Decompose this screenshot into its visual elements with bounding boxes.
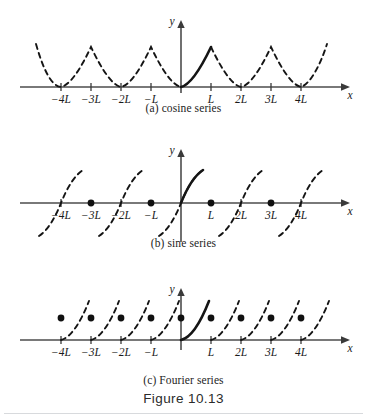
svg-text:3L: 3L xyxy=(264,209,277,221)
y-axis-label: y xyxy=(168,283,175,296)
figure-number-label: Figure 10.13 xyxy=(0,391,367,406)
svg-text:2L: 2L xyxy=(235,209,247,221)
figure-container: −4L −3L −2L −L L 2L 3L 4L x y (a) cosine… xyxy=(0,0,367,420)
curves-dashed xyxy=(61,301,329,340)
svg-text:L: L xyxy=(207,346,214,358)
svg-text:−4L: −4L xyxy=(51,346,71,358)
curve-solid-base-segment xyxy=(181,47,211,87)
x-axis-label: x xyxy=(346,89,353,101)
svg-text:−4L: −4L xyxy=(51,209,71,221)
svg-text:−2L: −2L xyxy=(111,209,131,221)
svg-text:L: L xyxy=(207,209,214,221)
svg-text:2L: 2L xyxy=(235,346,247,358)
panel-sine-series: −4L −3L −2L −L L 2L 3L 4L x y xyxy=(0,130,367,280)
curve-solid-base-segment xyxy=(181,170,203,203)
x-axis-label: x xyxy=(346,205,353,217)
y-axis-label: y xyxy=(168,15,175,28)
svg-text:−3L: −3L xyxy=(81,346,101,358)
svg-text:4L: 4L xyxy=(295,346,307,358)
x-tick-labels: −4L −3L −2L −L L 2L 3L 4L xyxy=(51,209,307,221)
svg-text:−L: −L xyxy=(144,346,158,358)
svg-text:−L: −L xyxy=(144,209,158,221)
svg-text:4L: 4L xyxy=(295,209,307,221)
svg-text:−2L: −2L xyxy=(111,346,131,358)
panel-caption-fourier-series: (c) Fourier series xyxy=(0,374,367,386)
curve-dashed-right xyxy=(211,44,327,87)
y-axis-arrowhead xyxy=(177,20,184,28)
y-axis-label: y xyxy=(168,144,175,157)
x-axis-label: x xyxy=(346,342,353,354)
curve-solid-base-segment xyxy=(181,301,209,340)
curve-dashed-left xyxy=(36,44,181,87)
y-axis-arrowhead xyxy=(177,149,184,157)
svg-text:−3L: −3L xyxy=(81,209,101,221)
panel-fourier-series: −4L −3L −2L −L L 2L 3L 4L x y xyxy=(0,272,367,382)
page-divider-rule xyxy=(4,413,363,414)
jump-mean-dots xyxy=(58,315,305,322)
y-axis-arrowhead xyxy=(177,288,184,296)
panel-caption-sine-series: (b) sine series xyxy=(0,237,367,249)
panel-caption-cosine-series: (a) cosine series xyxy=(0,102,367,114)
svg-text:3L: 3L xyxy=(264,346,277,358)
x-tick-labels: −4L −3L −2L −L L 2L 3L 4L xyxy=(51,346,307,358)
